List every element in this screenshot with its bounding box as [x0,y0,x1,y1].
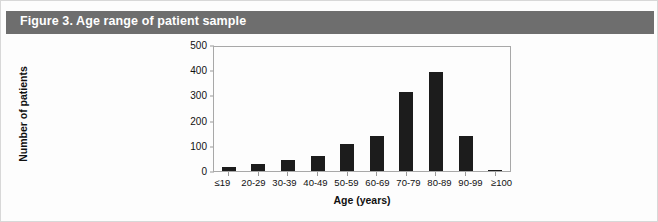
x-axis-title: Age (years) [213,194,511,206]
bar-slot [480,47,510,171]
bar-slot [421,47,451,171]
bar [399,92,413,171]
bar [251,164,265,171]
x-axis-tick-slot [332,172,362,176]
x-axis-tick-mark [376,172,377,176]
x-axis-tick-label: 80-89 [424,177,455,188]
x-axis-tick-mark [287,172,288,176]
x-axis-tick-label: 50-59 [331,177,362,188]
figure-caption-text: Figure 3. Age range of patient sample [20,14,246,28]
x-axis-tick-label: ≥100 [486,177,517,188]
x-axis-tick-mark [465,172,466,176]
chart-area: Number of patients ≤1920-2930-3940-4950-… [1,34,658,222]
bar [488,170,502,171]
bar [459,136,473,171]
x-axis-tick-label: 70-79 [393,177,424,188]
bar [311,156,325,171]
bar-slot [273,47,303,171]
x-axis-tick-slot [392,172,422,176]
bar [370,136,384,171]
x-axis-tick-label: 90-99 [455,177,486,188]
x-axis-tick-label: ≤19 [207,177,238,188]
x-axis-tick-slot [214,172,244,176]
y-axis-title: Number of patients [17,49,29,179]
bar-slot [332,47,362,171]
x-axis-tick-marks [214,172,510,176]
bar-slot [303,47,333,171]
x-axis-tick-mark [347,172,348,176]
y-axis-tick-label: 300 [181,91,207,101]
x-axis-tick-slot [421,172,451,176]
x-axis-tick-slot [273,172,303,176]
bar [429,72,443,171]
y-axis-tick-label: 0 [181,167,207,177]
x-axis-tick-mark [495,172,496,176]
x-axis-tick-label: 20-29 [238,177,269,188]
bar [222,167,236,171]
x-axis-tick-slot [451,172,481,176]
bar-series [214,47,510,171]
bar [340,144,354,171]
figure-container: Figure 3. Age range of patient sample Nu… [0,0,658,222]
bar-slot [392,47,422,171]
x-axis-tick-mark [406,172,407,176]
x-axis-tick-slot [362,172,392,176]
bar-slot [214,47,244,171]
x-axis-tick-mark [228,172,229,176]
bar [281,160,295,171]
x-axis-tick-label: 60-69 [362,177,393,188]
x-axis-tick-mark [435,172,436,176]
x-axis-tick-label: 30-39 [269,177,300,188]
bar-slot [244,47,274,171]
x-axis-tick-slot [244,172,274,176]
y-axis-tick-label: 200 [181,117,207,127]
x-axis-tick-slot [303,172,333,176]
bar-slot [451,47,481,171]
x-axis-tick-labels: ≤1920-2930-3940-4950-5960-6970-7980-8990… [207,177,517,188]
x-axis-tick-slot [480,172,510,176]
x-axis-tick-mark [317,172,318,176]
figure-caption-bar: Figure 3. Age range of patient sample [6,11,654,34]
y-axis-tick-label: 400 [181,66,207,76]
y-axis-tick-label: 100 [181,142,207,152]
bar-slot [362,47,392,171]
x-axis-tick-label: 40-49 [300,177,331,188]
x-axis-tick-mark [258,172,259,176]
y-axis-tick-label: 500 [181,41,207,51]
